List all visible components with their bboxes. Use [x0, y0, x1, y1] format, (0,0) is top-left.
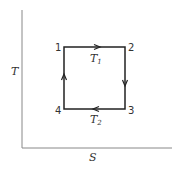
x-axis-label: S: [89, 151, 97, 164]
isotherm-top-label: T1: [90, 52, 102, 66]
state-4-label: 4: [55, 105, 61, 116]
ts-diagram: T S 1 2 3 4 T1 T2: [0, 0, 180, 169]
state-3-label: 3: [128, 105, 134, 116]
y-axis-label: T: [11, 65, 20, 78]
state-1-label: 1: [55, 42, 61, 53]
isotherm-bottom-label: T2: [90, 113, 102, 127]
state-2-label: 2: [128, 42, 134, 53]
